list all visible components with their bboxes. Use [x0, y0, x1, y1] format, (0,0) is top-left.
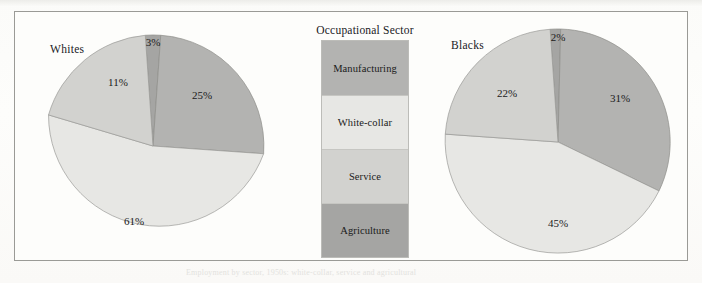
- legend-item-service[interactable]: Service: [322, 149, 408, 203]
- scan-edge: [0, 0, 702, 7]
- pie-title-blacks: Blacks: [451, 39, 484, 51]
- legend-stack: Manufacturing White-collar Service Agric…: [321, 40, 409, 258]
- legend-label-agriculture: Agriculture: [340, 225, 390, 236]
- slice-label-whites-agriculture: 3%: [146, 36, 161, 48]
- legend: Occupational Sector Manufacturing White-…: [310, 24, 420, 258]
- slice-label-blacks-service: 22%: [497, 87, 517, 99]
- legend-item-white-collar[interactable]: White-collar: [322, 95, 408, 149]
- chart-area: 3% 25% 61% 11% Whites 2%: [15, 12, 687, 260]
- slice-label-blacks-whitecollar: 45%: [548, 217, 568, 229]
- page-background: 3% 25% 61% 11% Whites 2%: [0, 0, 702, 283]
- legend-label-manufacturing: Manufacturing: [333, 63, 397, 74]
- pie-chart-whites[interactable]: 3% 25% 61% 11%: [37, 30, 269, 262]
- slice-label-whites-service: 11%: [108, 76, 128, 88]
- figure-caption-partial: Employment by sector, 1950s: white-colla…: [186, 268, 646, 277]
- pie-title-whites: Whites: [50, 43, 84, 55]
- slice-label-whites-whitecollar: 61%: [124, 215, 144, 227]
- pie-whites-svg: 3% 25% 61% 11%: [37, 30, 269, 262]
- legend-label-white-collar: White-collar: [338, 117, 392, 128]
- pie-blacks-svg: 2% 31% 45% 22%: [440, 24, 676, 260]
- slice-label-blacks-agriculture: 2%: [551, 31, 566, 43]
- figure-frame: 3% 25% 61% 11% Whites 2%: [14, 11, 688, 261]
- legend-title: Occupational Sector: [310, 24, 420, 36]
- legend-label-service: Service: [349, 171, 381, 182]
- pie-chart-blacks[interactable]: 2% 31% 45% 22%: [440, 24, 676, 260]
- legend-item-agriculture[interactable]: Agriculture: [322, 203, 408, 257]
- legend-item-manufacturing[interactable]: Manufacturing: [322, 41, 408, 95]
- slice-label-blacks-manufacturing: 31%: [610, 92, 630, 104]
- slice-label-whites-manufacturing: 25%: [192, 89, 212, 101]
